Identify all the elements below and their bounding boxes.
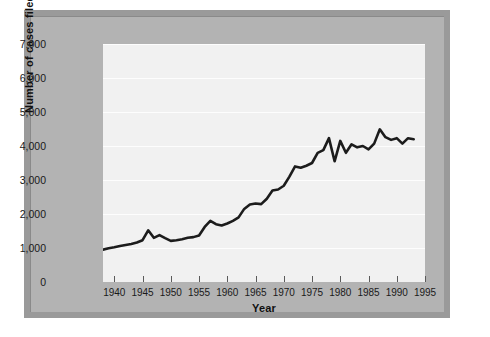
x-axis-tick-mark xyxy=(397,276,398,282)
x-axis-tick-mark xyxy=(340,276,341,282)
x-axis-tick-mark xyxy=(114,276,115,282)
y-axis-tick-label: 7,000 xyxy=(0,39,46,49)
x-axis-tick-mark xyxy=(312,276,313,282)
x-axis-tick-mark xyxy=(171,276,172,282)
y-axis-tick-label: 5,000 xyxy=(0,107,46,117)
y-axis-tick-label: 4,000 xyxy=(0,141,46,151)
y-axis-tick-label: 1,000 xyxy=(0,243,46,253)
x-axis-tick-mark xyxy=(425,276,426,282)
x-axis-label: Year xyxy=(103,302,425,314)
x-axis-tick-mark xyxy=(256,276,257,282)
chart-panel: Number of cases filed 01,0002,0003,0004,… xyxy=(30,16,444,312)
x-axis-tick-mark xyxy=(143,276,144,282)
x-axis-tick-mark xyxy=(369,276,370,282)
y-axis-tick-label: 6,000 xyxy=(0,73,46,83)
y-axis-label: Number of cases filed xyxy=(23,0,35,113)
chart-figure: Number of cases filed 01,0002,0003,0004,… xyxy=(0,0,490,337)
x-axis-tick-mark xyxy=(227,276,228,282)
chart-outer-frame: Number of cases filed 01,0002,0003,0004,… xyxy=(24,10,450,318)
y-axis-tick-label: 0 xyxy=(0,277,46,287)
x-axis-tick-label: 1995 xyxy=(407,287,443,298)
data-line-series xyxy=(103,44,425,282)
y-axis-tick-label: 2,000 xyxy=(0,209,46,219)
x-axis-tick-mark xyxy=(284,276,285,282)
x-axis-tick-mark xyxy=(199,276,200,282)
plot-area xyxy=(103,44,425,282)
y-axis-tick-label: 3,000 xyxy=(0,175,46,185)
